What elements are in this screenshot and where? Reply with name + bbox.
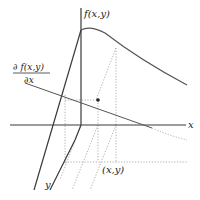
partial-derivative-diagram: f(x,y) x y (x,y) ∂ f(x,y) ∂x	[0, 0, 200, 200]
y-axis-label: y	[44, 179, 51, 190]
surface-curve	[81, 28, 187, 85]
f-axis-label: f(x,y)	[83, 8, 110, 19]
partial-numerator: ∂ f(x,y)	[13, 62, 44, 72]
point-label: (x,y)	[102, 164, 124, 175]
y-axis-line	[50, 125, 81, 190]
guide-slant-c	[90, 125, 116, 190]
partial-denominator: ∂x	[24, 75, 34, 85]
surface-continuation-dotted	[152, 128, 187, 140]
surface-left-edge	[34, 30, 81, 190]
guide-slant-top	[96, 48, 116, 100]
tangent-line	[25, 83, 152, 128]
point-marker	[96, 98, 100, 102]
x-axis-label: x	[188, 119, 194, 130]
